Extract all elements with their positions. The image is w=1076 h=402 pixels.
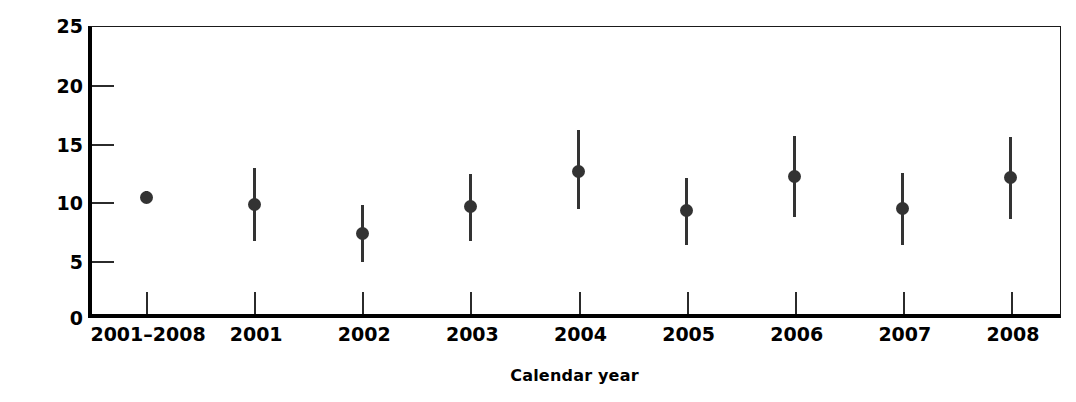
x-axis-tick: 2001 [254, 292, 256, 314]
x-axis-tick-label: 2001 [230, 323, 283, 345]
x-axis-tick-label: 2006 [770, 323, 823, 345]
data-point-marker [896, 202, 909, 215]
y-axis-tick-label: 20 [57, 75, 83, 97]
data-point-marker [788, 170, 801, 183]
y-axis-tick-label: 5 [70, 251, 83, 273]
y-axis-tick-label: 25 [57, 15, 83, 37]
y-axis-tick: 20 [92, 85, 114, 87]
x-axis-tick: 2002 [362, 292, 364, 314]
x-axis-tick: 2007 [903, 292, 905, 314]
data-point-marker [140, 191, 153, 204]
y-axis-tick: 15 [92, 144, 114, 146]
data-point-marker [1004, 171, 1017, 184]
data-point-marker [572, 165, 585, 178]
x-axis-tick-label: 2003 [446, 323, 499, 345]
chart-figure: Rate per 100,000 0510152025 2001–2008200… [0, 0, 1076, 402]
x-axis-tick: 2003 [470, 292, 472, 314]
x-axis-tick-label: 2002 [338, 323, 391, 345]
x-axis-tick-label: 2004 [554, 323, 607, 345]
x-axis-title: Calendar year [88, 366, 1061, 385]
y-axis-tick: 10 [92, 202, 114, 204]
y-axis-title: Rate per 100,000 [0, 0, 34, 402]
y-axis-tick-label: 10 [57, 192, 83, 214]
y-axis-tick: 5 [92, 261, 114, 263]
x-axis-tick: 2001–2008 [146, 292, 148, 314]
data-point-marker [248, 198, 261, 211]
x-axis-tick-label: 2005 [662, 323, 715, 345]
y-axis-title-text: Rate per 100,000 [0, 117, 65, 284]
x-axis-tick: 2004 [579, 292, 581, 314]
plot-area: 0510152025 2001–200820012002200320042005… [88, 26, 1061, 318]
x-axis-tick-label: 2007 [878, 323, 931, 345]
data-point-marker [464, 200, 477, 213]
x-axis-tick-label: 2008 [986, 323, 1039, 345]
y-axis-tick-label: 15 [57, 134, 83, 156]
x-axis-tick: 2006 [795, 292, 797, 314]
data-point-marker [680, 204, 693, 217]
x-axis-tick: 2005 [687, 292, 689, 314]
x-axis-tick: 2008 [1011, 292, 1013, 314]
data-point-marker [356, 227, 369, 240]
y-axis-tick-label: 0 [70, 307, 83, 329]
x-axis-tick-label: 2001–2008 [90, 323, 205, 345]
